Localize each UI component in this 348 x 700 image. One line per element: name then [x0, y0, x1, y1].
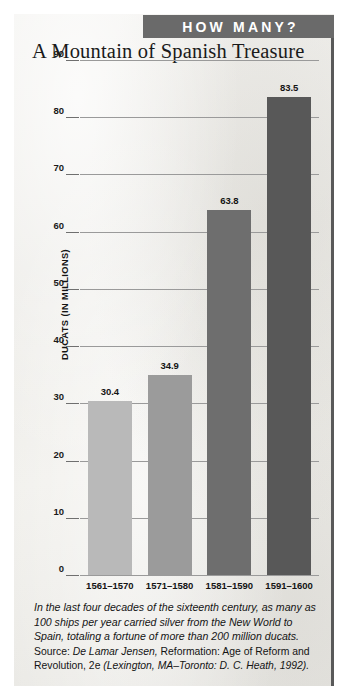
bar[interactable]: [207, 210, 251, 575]
plot-area: DUCATS (IN MILLIONS) 0102030405060708090…: [66, 60, 319, 575]
y-axis-tick: [66, 174, 79, 175]
gridline: [80, 575, 319, 576]
y-axis-tick-label: 60: [44, 220, 64, 231]
x-axis-label: 1571–1580: [140, 580, 200, 591]
bar[interactable]: [148, 375, 192, 575]
y-axis-tick-label: 80: [44, 105, 64, 116]
y-axis-tick: [66, 289, 79, 290]
y-axis-tick: [66, 461, 79, 462]
card-right-rule: [331, 16, 334, 686]
x-axis-label: 1561–1570: [80, 580, 140, 591]
caption-text: In the last four decades of the sixteent…: [34, 600, 317, 644]
y-axis-tick: [66, 60, 79, 61]
y-axis-tick-label: 70: [44, 162, 64, 173]
y-axis-tick: [66, 117, 79, 118]
x-axis-label: 1581–1590: [200, 580, 260, 591]
y-axis-tick: [66, 403, 79, 404]
y-axis-tick-label: 90: [44, 48, 64, 59]
bar-slot: 30.4: [80, 60, 140, 575]
bar-slot: 83.5: [259, 60, 319, 575]
source-prefix: Source:: [34, 646, 73, 657]
x-axis-label: 1591–1600: [259, 580, 319, 591]
source-author: De Lamar Jensen,: [73, 646, 161, 657]
y-axis-tick: [66, 346, 79, 347]
y-axis-tick-label: 30: [44, 391, 64, 402]
bar-value-label: 83.5: [259, 82, 319, 93]
y-axis-tick-label: 10: [44, 506, 64, 517]
figure-card: HOW MANY? A Mountain of Spanish Treasure…: [14, 14, 334, 686]
x-axis-labels: 1561–15701571–15801581–15901591–1600: [80, 580, 319, 594]
bar-value-label: 30.4: [80, 386, 140, 397]
bars-layer: 30.434.963.883.5: [80, 60, 319, 575]
bar-value-label: 34.9: [140, 360, 200, 371]
bar-value-label: 63.8: [200, 195, 260, 206]
y-axis-tick: [66, 575, 79, 576]
y-axis-tick: [66, 232, 79, 233]
y-axis-tick-label: 50: [44, 277, 64, 288]
caption-source: Source: De Lamar Jensen, Reformation: Ag…: [34, 645, 317, 674]
y-axis-tick: [66, 518, 79, 519]
source-publisher: (Lexington, MA–Toronto: D. C. Heath, 199…: [103, 660, 309, 671]
y-axis-tick-label: 0: [44, 563, 64, 574]
figure-page: HOW MANY? A Mountain of Spanish Treasure…: [0, 0, 348, 700]
how-many-banner: HOW MANY?: [143, 15, 334, 38]
caption-block: In the last four decades of the sixteent…: [34, 600, 317, 674]
y-axis-tick-label: 40: [44, 334, 64, 345]
bar[interactable]: [88, 401, 132, 575]
y-axis-tick-label: 20: [44, 449, 64, 460]
bar-slot: 63.8: [200, 60, 260, 575]
bar-slot: 34.9: [140, 60, 200, 575]
bar[interactable]: [267, 97, 311, 575]
